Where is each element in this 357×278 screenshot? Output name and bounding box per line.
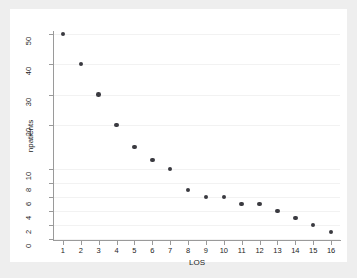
x-axis-tick [295,241,296,245]
plot-area [54,33,340,239]
y-axis-tick [49,225,53,226]
data-point [79,62,84,67]
data-point [311,223,316,228]
data-point [96,92,101,97]
y-axis-tick-label-text: 8 [24,188,34,192]
y-axis-tick-label: 10 [10,164,48,174]
gridline [54,183,340,184]
x-axis-tick [224,241,225,245]
gridline [54,64,340,65]
y-axis-tick [49,34,53,35]
chart-canvas: npatients LOS 02468102030405012345678910… [10,9,347,262]
x-axis-tick [117,241,118,245]
x-axis-title-text: LOS [53,258,341,267]
y-axis-tick-label-text: 50 [24,37,34,45]
x-axis-tick [99,241,100,245]
data-point [168,167,173,172]
chart-figure: npatients LOS 02468102030405012345678910… [0,0,357,278]
gridline [54,225,340,226]
gridline [54,34,340,35]
y-axis-tick-label: 2 [10,220,48,230]
y-axis-line [53,31,54,241]
y-axis-tick [49,197,53,198]
x-axis-line [53,240,341,241]
y-axis-tick [49,64,53,65]
y-axis-tick-label: 20 [10,120,48,130]
gridline [54,211,340,212]
x-axis-tick [81,241,82,245]
x-axis-tick [260,241,261,245]
y-axis-tick-label-text: 30 [24,97,34,105]
x-axis-tick [242,241,243,245]
y-axis-tick-label-text: 10 [24,172,34,180]
y-axis-tick-label-text: 0 [24,244,34,248]
y-axis-tick-label-text: 4 [24,216,34,220]
x-axis-tick [188,241,189,245]
y-axis-tick [49,95,53,96]
y-axis-tick [49,125,53,126]
data-point [329,230,334,235]
data-point [275,209,280,214]
y-axis-tick [49,211,53,212]
y-axis-tick-label: 0 [10,234,48,244]
y-axis-tick-label-text: 6 [24,202,34,206]
data-point [132,145,137,150]
y-axis-tick-label-text: 40 [24,67,34,75]
y-axis-tick [49,169,53,170]
data-point [293,216,298,221]
data-point [150,158,155,163]
gridline [54,197,340,198]
x-axis-tick [206,241,207,245]
x-axis-tick [63,241,64,245]
gridline [54,125,340,126]
y-axis-tick-label-text: 2 [24,230,34,234]
x-axis-tick [152,241,153,245]
data-point [114,123,119,128]
y-axis-tick-label: 50 [10,29,48,39]
gridline [54,169,340,170]
y-axis-tick-label-text: 20 [24,128,34,136]
y-axis-tick-label: 30 [10,90,48,100]
x-axis-tick-label: 16 [318,246,344,256]
x-axis-tick [134,241,135,245]
data-point [204,195,209,200]
y-axis-tick-label: 4 [10,206,48,216]
y-axis-tick-label: 40 [10,59,48,69]
data-point [257,202,262,207]
y-axis-tick [49,239,53,240]
x-axis-tick [170,241,171,245]
data-point [186,188,191,193]
data-point [222,195,227,200]
x-axis-tick [331,241,332,245]
y-axis-tick [49,183,53,184]
x-axis-tick [313,241,314,245]
y-axis-tick-label: 6 [10,192,48,202]
x-axis-tick [277,241,278,245]
data-point [61,32,66,37]
data-point [239,202,244,207]
